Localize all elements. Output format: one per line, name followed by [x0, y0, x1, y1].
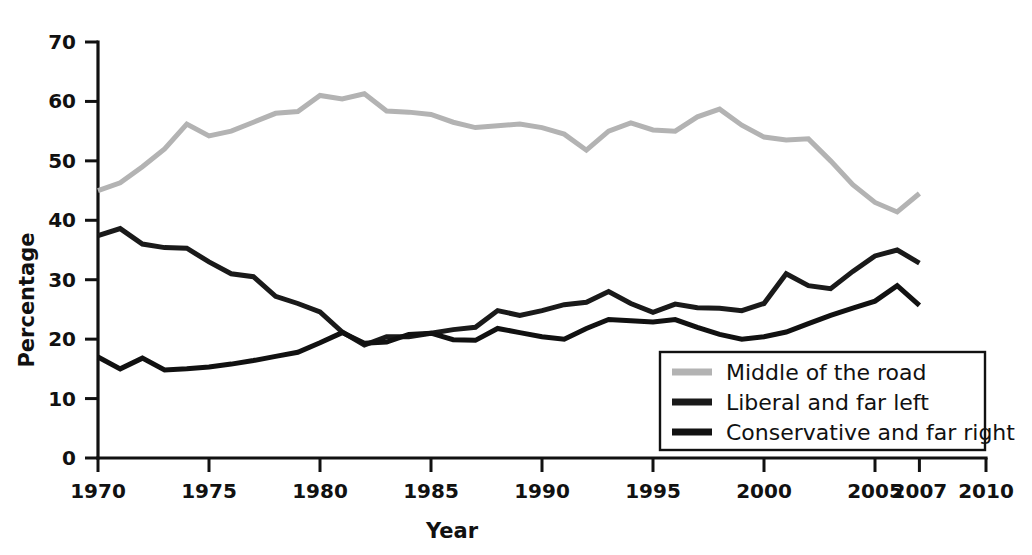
chart-legend: Middle of the roadLiberal and far leftCo…	[660, 352, 1015, 450]
y-tick-label: 60	[48, 89, 76, 113]
legend-label-2[interactable]: Conservative and far right	[726, 420, 1015, 445]
x-axis-tick-labels: 1970197519801985199019952000200520072010	[70, 479, 1014, 503]
series-line-0	[98, 94, 919, 212]
x-tick-label: 1995	[625, 479, 681, 503]
y-tick-label: 50	[48, 149, 76, 173]
y-tick-label: 30	[48, 268, 76, 292]
y-tick-label: 20	[48, 327, 76, 351]
x-tick-label: 1975	[181, 479, 237, 503]
legend-label-1[interactable]: Liberal and far left	[726, 390, 929, 415]
x-tick-label: 1990	[514, 479, 570, 503]
y-axis-title: Percentage	[15, 232, 39, 367]
y-tick-label: 10	[48, 387, 76, 411]
y-tick-label: 70	[48, 30, 76, 54]
x-tick-label: 1985	[403, 479, 459, 503]
x-tick-label: 2010	[958, 479, 1014, 503]
y-axis-tick-labels: 010203040506070	[48, 30, 76, 470]
chart-series-group	[98, 94, 919, 370]
x-tick-label: 2007	[892, 479, 948, 503]
line-chart: 010203040506070 197019751980198519901995…	[0, 0, 1032, 555]
x-axis-title: Year	[425, 519, 479, 543]
y-axis-ticks	[85, 42, 98, 458]
chart-figure: 010203040506070 197019751980198519901995…	[0, 0, 1032, 555]
y-tick-label: 0	[62, 446, 76, 470]
legend-label-0[interactable]: Middle of the road	[726, 360, 926, 385]
x-axis-ticks	[98, 458, 986, 472]
x-tick-label: 1970	[70, 479, 126, 503]
y-tick-label: 40	[48, 208, 76, 232]
x-tick-label: 1980	[292, 479, 348, 503]
x-tick-label: 2000	[736, 479, 792, 503]
